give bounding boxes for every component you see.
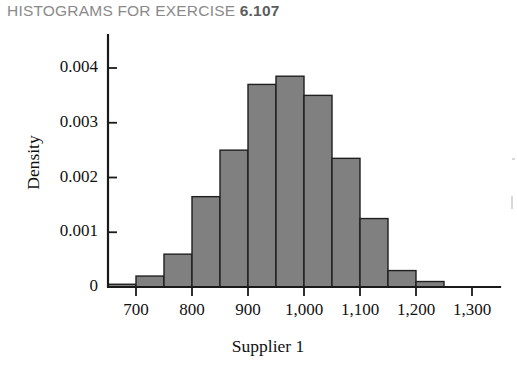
x-axis-title: Supplier 1	[168, 336, 368, 357]
histogram-bar	[192, 197, 220, 287]
histogram-bar	[388, 271, 416, 287]
cropped-neighbor-mark-top	[512, 158, 515, 160]
y-tick-label: 0	[10, 276, 98, 296]
histogram-bar	[220, 150, 248, 287]
y-tick-label: 0.001	[10, 221, 98, 241]
histogram-figure: HISTOGRAMS FOR EXERCISE 6.107 00.0010.00…	[0, 0, 517, 371]
cropped-neighbor-mark-bottom	[511, 196, 513, 209]
y-axis-title: Density	[23, 118, 44, 208]
chart-plot-area: 00.0010.0020.0030.004 7008009001,0001,10…	[0, 0, 517, 371]
histogram-bar	[248, 84, 276, 287]
histogram-bars	[108, 76, 444, 287]
histogram-bar	[164, 254, 192, 287]
x-tick-label: 1,300	[437, 300, 507, 320]
y-tick-label: 0.004	[10, 57, 98, 77]
histogram-bar	[360, 219, 388, 287]
histogram-bar	[332, 158, 360, 287]
histogram-bar	[136, 276, 164, 287]
histogram-bar	[304, 95, 332, 287]
histogram-bar	[276, 76, 304, 287]
